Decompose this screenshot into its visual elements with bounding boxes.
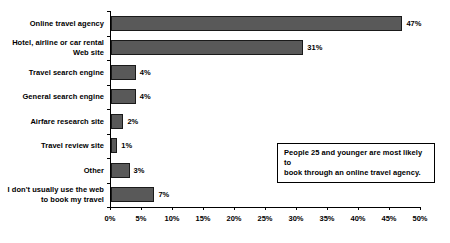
y-axis-tick <box>107 36 110 37</box>
x-axis-tick-label: 5% <box>124 214 158 223</box>
category-label-line: Travel search engine <box>0 68 104 78</box>
bar <box>111 163 130 178</box>
bar <box>111 114 123 129</box>
y-axis-tick <box>107 183 110 184</box>
x-axis-tick <box>265 207 266 210</box>
category-label: Airfare research site <box>0 117 104 127</box>
x-axis-tick-label: 20% <box>217 214 251 223</box>
x-axis-tick <box>110 207 111 210</box>
y-axis-tick <box>107 134 110 135</box>
bar-value-label: 31% <box>307 43 322 52</box>
category-label-line: Airfare research site <box>0 117 104 127</box>
x-axis-tick-label: 40% <box>341 214 375 223</box>
category-label: Online travel agency <box>0 19 104 29</box>
category-label: I don't usually use the webto book my tr… <box>0 185 104 204</box>
category-label: Travel search engine <box>0 68 104 78</box>
category-label-line: I don't usually use the web <box>0 185 104 195</box>
x-axis-tick <box>389 207 390 210</box>
x-axis-tick <box>327 207 328 210</box>
category-label-line: Web site <box>0 48 104 58</box>
category-label-line: Travel review site <box>0 141 104 151</box>
category-label: Travel review site <box>0 141 104 151</box>
category-label: Other <box>0 166 104 176</box>
bar-value-label: 47% <box>406 19 421 28</box>
x-axis-tick-label: 0% <box>93 214 127 223</box>
x-axis-tick <box>203 207 204 210</box>
category-label: General search engine <box>0 92 104 102</box>
category-label: Hotel, airline or car rentalWeb site <box>0 38 104 57</box>
x-axis-tick-label: 45% <box>372 214 406 223</box>
x-axis-tick <box>141 207 142 210</box>
bar <box>111 40 303 55</box>
bar-value-label: 4% <box>140 68 151 77</box>
y-axis-tick <box>107 109 110 110</box>
y-axis-tick <box>107 11 110 12</box>
y-axis-tick <box>107 158 110 159</box>
category-label-line: Online travel agency <box>0 19 104 29</box>
category-label-line: Other <box>0 166 104 176</box>
bar-value-label: 2% <box>127 117 138 126</box>
annotation-line-1: People 25 and younger are most likely to <box>284 148 429 168</box>
y-axis-tick <box>107 85 110 86</box>
x-axis-tick <box>172 207 173 210</box>
bar-value-label: 1% <box>121 141 132 150</box>
bar <box>111 65 136 80</box>
bar <box>111 89 136 104</box>
x-axis-tick-label: 15% <box>186 214 220 223</box>
x-axis-tick <box>296 207 297 210</box>
annotation-line-2: book through an online travel agency. <box>284 168 429 178</box>
bar-value-label: 3% <box>134 166 145 175</box>
y-axis-tick <box>107 207 110 208</box>
x-axis-tick-label: 50% <box>403 214 437 223</box>
x-axis-tick <box>420 207 421 210</box>
bar <box>111 138 117 153</box>
annotation-callout: People 25 and younger are most likely to… <box>277 143 435 183</box>
category-axis-labels: Online travel agencyHotel, airline or ca… <box>0 11 104 207</box>
category-label-line: General search engine <box>0 92 104 102</box>
bar <box>111 187 154 202</box>
x-axis-tick-label: 10% <box>155 214 189 223</box>
x-axis-tick-label: 35% <box>310 214 344 223</box>
x-axis-tick <box>358 207 359 210</box>
category-label-line: Hotel, airline or car rental <box>0 38 104 48</box>
category-label-line: to book my travel <box>0 195 104 205</box>
bar <box>111 16 402 31</box>
x-axis-tick-label: 30% <box>279 214 313 223</box>
bar-value-label: 4% <box>140 92 151 101</box>
x-axis-tick-label: 25% <box>248 214 282 223</box>
x-axis-tick <box>234 207 235 210</box>
bar-value-label: 7% <box>158 190 169 199</box>
bar-chart: Online travel agencyHotel, airline or ca… <box>0 0 450 243</box>
y-axis-tick <box>107 60 110 61</box>
